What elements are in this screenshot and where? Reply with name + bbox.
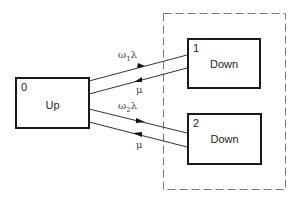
node-down-1: 1 Down (187, 38, 261, 89)
lambda-symbol: λ (131, 49, 137, 60)
node-label: Down (189, 58, 259, 70)
node-number: 2 (193, 117, 199, 129)
edge-label-0-to-2: ω2λ (118, 100, 137, 114)
node-down-2: 2 Down (187, 113, 262, 165)
edge-0-to-1 (89, 55, 187, 81)
node-label: Up (17, 99, 88, 111)
edge-label-1-to-0: μ (136, 84, 143, 95)
omega-symbol: ω (118, 49, 126, 60)
lambda-symbol: λ (131, 100, 137, 111)
arrowhead-2-to-0 (133, 132, 142, 137)
node-up-0: 0 Up (15, 77, 90, 129)
node-label: Down (189, 133, 260, 145)
edge-label-2-to-0: μ (136, 139, 143, 150)
edge-label-0-to-1: ω1λ (118, 49, 137, 63)
omega-symbol: ω (118, 100, 126, 111)
node-number: 1 (193, 42, 199, 54)
node-number: 0 (21, 81, 27, 93)
